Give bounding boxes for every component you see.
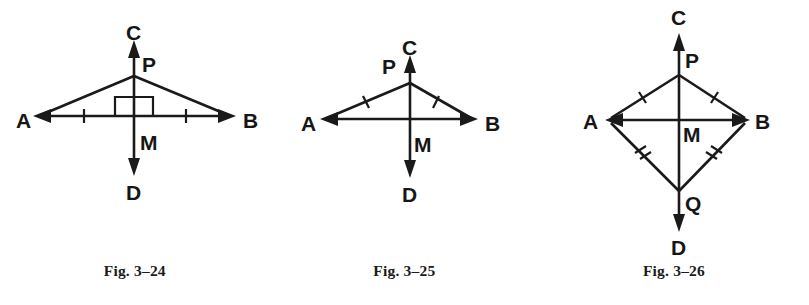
arrowhead-d-icon — [128, 158, 140, 176]
caption-fig-3-25: Fig. 3–25 — [270, 262, 540, 280]
figure-panel-3-26: A B C D M P Q Fig. 3–26 — [539, 0, 809, 305]
label-p: P — [142, 53, 156, 76]
arrowhead-d-icon — [404, 160, 416, 178]
segment-bp — [679, 75, 745, 118]
arrowhead-d-icon — [673, 214, 685, 232]
label-b: B — [243, 109, 258, 132]
segment-bp — [410, 83, 471, 118]
figure-panel-3-24: A B C D M P Fig. 3–24 — [0, 0, 270, 305]
diagram-fig-3-25: A B C D M P — [270, 0, 540, 305]
caption-fig-3-26: Fig. 3–26 — [539, 262, 809, 280]
label-c: C — [402, 36, 417, 59]
label-d: D — [671, 236, 686, 259]
label-a: A — [583, 110, 598, 133]
label-a: A — [16, 109, 31, 132]
figure-sheet: A B C D M P Fig. 3–24 A — [0, 0, 809, 305]
label-p: P — [685, 49, 699, 72]
figure-panel-3-25: A B C D M P Fig. 3–25 — [270, 0, 540, 305]
label-c: C — [671, 6, 686, 29]
label-d: D — [402, 183, 417, 206]
segment-ap — [327, 83, 410, 118]
label-m: M — [140, 131, 157, 154]
label-b: B — [755, 110, 770, 133]
diagram-fig-3-24: A B C D M P — [0, 0, 270, 305]
label-a: A — [301, 112, 316, 135]
segment-bp — [134, 76, 228, 115]
segment-ap — [41, 76, 134, 115]
label-m: M — [683, 123, 700, 146]
label-p: P — [382, 55, 396, 78]
arrowhead-c-icon — [673, 33, 685, 51]
caption-fig-3-24: Fig. 3–24 — [0, 262, 270, 280]
label-c: C — [126, 21, 141, 44]
label-m: M — [414, 133, 431, 156]
label-q: Q — [685, 192, 701, 215]
label-b: B — [485, 112, 500, 135]
diagram-fig-3-26: A B C D M P Q — [539, 0, 809, 305]
label-d: D — [126, 181, 141, 204]
segment-ap — [611, 75, 679, 118]
